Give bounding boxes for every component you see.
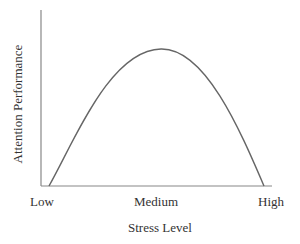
x-tick-medium: Medium [134,194,178,210]
performance-curve [49,49,264,186]
x-tick-low: Low [30,194,54,210]
y-axis-title: Attention Performance [10,34,26,174]
x-axis-title: Stress Level [128,220,192,236]
x-tick-high: High [258,194,284,210]
